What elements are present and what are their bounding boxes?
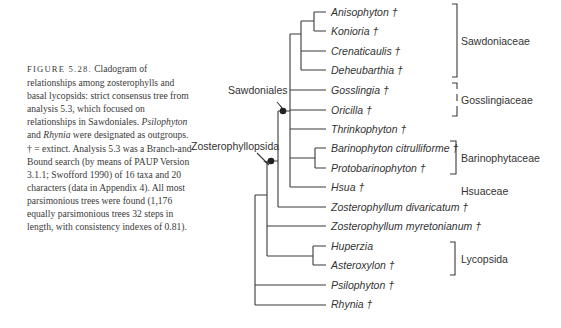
taxon-label: Asteroxylon † — [331, 259, 395, 271]
node-label-sawdoniales: Sawdoniales — [228, 84, 288, 96]
taxon-label: Deheubarthia † — [331, 64, 403, 76]
taxon-label: Barinophyton citrulliforme † — [331, 142, 458, 154]
taxon-label: Zosterophyllum myretonianum † — [331, 220, 481, 232]
taxon-label: Protobarinophyton † — [331, 162, 426, 174]
zosterophyllopsida-node-dot — [268, 158, 275, 165]
taxon-label: Konioria † — [331, 25, 378, 37]
taxon-label: Huperzia — [331, 240, 373, 252]
node-label-zosterophyllopsida: Zosterophyllopsida — [191, 140, 279, 152]
gosslingiaceae-bracket — [452, 83, 457, 116]
group-label-hsuaceae: Hsuaceae — [461, 185, 508, 197]
sawdoniaceae-bracket — [452, 4, 457, 77]
group-label-barinophytaceae: Barinophytaceae — [461, 152, 540, 164]
taxon-label: Anisophyton † — [331, 6, 398, 18]
taxon-label: Rhynia † — [331, 298, 372, 310]
taxon-label: Zosterophyllum divaricatum † — [331, 201, 468, 213]
tree-branches — [255, 12, 326, 305]
group-label-lycopsida: Lycopsida — [461, 253, 508, 265]
cladogram-tree — [0, 0, 561, 328]
taxon-label: Psilophyton † — [331, 279, 394, 291]
group-brackets — [450, 4, 457, 275]
lycopsida-bracket — [450, 242, 455, 275]
node-markers — [263, 105, 286, 166]
taxon-label: Gosslingia † — [331, 84, 389, 96]
taxon-label: Hsua † — [331, 181, 364, 193]
taxon-label: Oricilla † — [331, 104, 372, 116]
taxon-label: Crenaticaulis † — [331, 45, 400, 57]
sawdoniales-node-dot — [280, 108, 287, 115]
taxon-label: Thrinkophyton † — [331, 123, 406, 135]
group-label-gosslingiaceae: Gosslingiaceae — [461, 94, 533, 106]
group-label-sawdoniaceae: Sawdoniaceae — [461, 35, 530, 47]
